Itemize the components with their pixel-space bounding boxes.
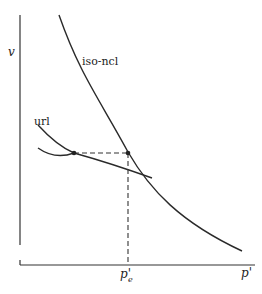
iso-ncl-curve — [59, 15, 242, 251]
iso-ncl-point — [126, 151, 131, 156]
compression-diagram: v iso-ncl url p' p'e — [0, 0, 262, 294]
iso-ncl-label: iso-ncl — [82, 55, 119, 68]
url-start-point — [72, 151, 77, 156]
y-axis-label: v — [8, 45, 15, 59]
url-curve-lead — [38, 125, 74, 153]
x-axis-label: p' — [241, 266, 252, 280]
x-marker-subscript: e — [128, 275, 133, 284]
url-label: url — [34, 115, 50, 128]
x-marker-label: p'e — [120, 267, 133, 284]
